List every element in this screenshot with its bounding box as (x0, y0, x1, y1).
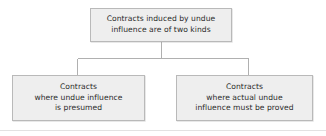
node-proved-label: Contracts where actual undue influence m… (192, 82, 296, 114)
node-contracts-actual-undue-influence-proved: Contracts where actual undue influence m… (176, 75, 313, 121)
footer-divider (0, 130, 326, 131)
node-contracts-undue-influence-presumed: Contracts where undue influence is presu… (12, 75, 145, 121)
node-presumed-label: Contracts where undue influence is presu… (32, 82, 126, 114)
node-root-contracts-two-kinds: Contracts induced by undue influence are… (90, 8, 232, 42)
flowchart-undue-influence: Contracts induced by undue influence are… (0, 0, 326, 136)
node-root-label: Contracts induced by undue influence are… (104, 14, 219, 35)
